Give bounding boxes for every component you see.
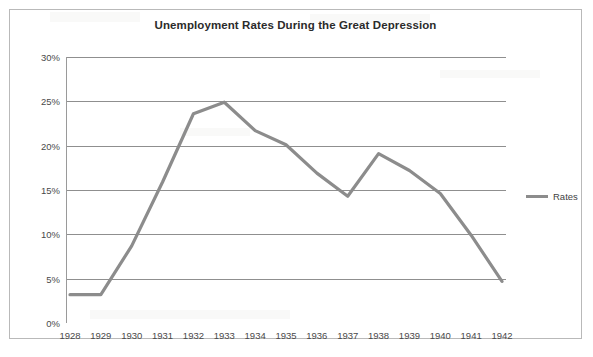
y-axis-tick-label: 10% — [41, 229, 60, 240]
x-axis-tick-label: 1939 — [399, 330, 420, 341]
x-axis-tick-label: 1942 — [491, 330, 512, 341]
plot-area: 0%5%10%15%20%25%30% 19281929193019311932… — [66, 57, 506, 323]
y-axis-tick-label: 20% — [41, 140, 60, 151]
x-axis-tick-label: 1932 — [183, 330, 204, 341]
legend-label-rates: Rates — [553, 191, 578, 202]
chart-title: Unemployment Rates During the Great Depr… — [10, 19, 581, 31]
y-axis-tick-label: 30% — [41, 52, 60, 63]
x-axis-tick-label: 1933 — [214, 330, 235, 341]
chart-canvas — [66, 57, 506, 323]
x-axis-tick-label: 1930 — [121, 330, 142, 341]
x-axis-tick-label: 1929 — [90, 330, 111, 341]
x-axis-tick-label: 1936 — [306, 330, 327, 341]
legend: Rates — [526, 191, 578, 202]
x-axis-tick-label: 1941 — [461, 330, 482, 341]
x-axis-tick-label: 1937 — [337, 330, 358, 341]
y-axis-tick-label: 15% — [41, 185, 60, 196]
x-axis-tick-label: 1934 — [245, 330, 266, 341]
x-axis-tick-label: 1928 — [59, 330, 80, 341]
x-axis-tick-label: 1940 — [430, 330, 451, 341]
y-axis-tick-label: 5% — [46, 273, 60, 284]
chart-frame: Unemployment Rates During the Great Depr… — [9, 9, 582, 339]
gridlines — [66, 58, 506, 324]
series-line-rates — [70, 102, 502, 294]
data-series-group — [70, 102, 502, 294]
x-axis-tick-label: 1931 — [152, 330, 173, 341]
legend-line-swatch — [526, 195, 548, 198]
x-axis-tick-label: 1938 — [368, 330, 389, 341]
y-axis-tick-label: 0% — [46, 318, 60, 329]
x-axis-tick-label: 1935 — [275, 330, 296, 341]
y-axis-tick-label: 25% — [41, 96, 60, 107]
